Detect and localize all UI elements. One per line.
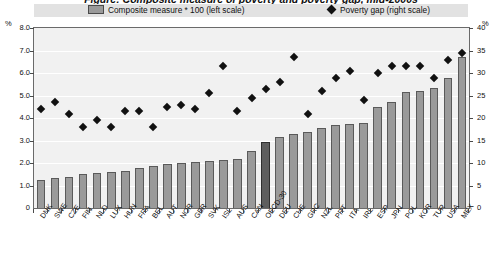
axis-label-left: 4.0 <box>4 113 30 122</box>
x-axis-tick <box>159 209 160 213</box>
x-axis-tick <box>468 209 469 213</box>
x-axis-tick <box>229 209 230 213</box>
x-axis-tick <box>384 209 385 213</box>
marker-aut <box>163 103 171 111</box>
x-axis-tick <box>117 209 118 213</box>
marker-kor <box>416 62 424 70</box>
bar-pol <box>402 92 411 208</box>
bar-fra <box>135 168 144 209</box>
x-axis-tick <box>370 209 371 213</box>
axis-label-right: 15 <box>477 136 502 145</box>
x-axis-tick <box>300 209 301 213</box>
x-axis-tick <box>328 209 329 213</box>
axis-label-left: 7.0 <box>4 46 30 55</box>
axis-tick-left <box>30 186 34 187</box>
x-axis-tick <box>89 209 90 213</box>
axis-label-right: 40 <box>477 23 502 32</box>
bar-usa <box>444 78 453 209</box>
bar-fin <box>79 174 88 208</box>
bar-mex <box>458 57 467 208</box>
diamond-marker-icon <box>327 5 337 15</box>
marker-fra <box>135 107 143 115</box>
axis-label-left: 3.0 <box>4 136 30 145</box>
axis-label-left: 8.0 <box>4 23 30 32</box>
x-axis-tick <box>187 209 188 213</box>
axis-label-left: 5.0 <box>4 91 30 100</box>
x-axis-tick <box>286 209 287 213</box>
axis-label-left: 1.0 <box>4 181 30 190</box>
marker-deu <box>275 78 283 86</box>
axis-tick-left <box>30 73 34 74</box>
marker-bel <box>149 123 157 131</box>
axis-label-right: 10 <box>477 158 502 167</box>
axis-label-left: 0 <box>4 203 30 212</box>
axis-tick-left <box>30 141 34 142</box>
marker-usa <box>444 55 452 63</box>
x-axis-tick <box>356 209 357 213</box>
marker-lux <box>107 123 115 131</box>
axis-tick-left <box>30 51 34 52</box>
marker-hun <box>121 107 129 115</box>
marker-oecd-30 <box>261 85 269 93</box>
legend-label-poverty-gap: Poverty gap (right scale) <box>340 5 430 15</box>
axis-tick-right <box>469 73 473 74</box>
x-axis-tick <box>398 209 399 213</box>
x-axis-tick <box>243 209 244 213</box>
marker-pol <box>402 62 410 70</box>
marker-isl <box>219 62 227 70</box>
x-axis-tick <box>454 209 455 213</box>
bar-jpn <box>387 102 396 208</box>
bar-nor <box>177 163 186 208</box>
square-swatch-icon <box>88 5 104 14</box>
axis-tick-right <box>469 28 473 29</box>
x-axis-tick <box>131 209 132 213</box>
x-axis-tick <box>47 209 48 213</box>
legend-label-composite: Composite measure * 100 (left scale) <box>108 5 245 15</box>
marker-che <box>289 53 297 61</box>
chart-legend: Composite measure * 100 (left scale) Pov… <box>34 4 468 17</box>
marker-nzl <box>317 87 325 95</box>
marker-gbr <box>191 105 199 113</box>
marker-cze <box>65 109 73 117</box>
x-axis-tick <box>75 209 76 213</box>
marker-prt <box>331 73 339 81</box>
axis-label-right: 5 <box>477 181 502 190</box>
marker-swe <box>51 98 59 106</box>
bar-kor <box>416 91 425 208</box>
bar-lux <box>107 172 116 208</box>
marker-fin <box>79 123 87 131</box>
marker-esp <box>374 69 382 77</box>
x-axis-tick <box>272 209 273 213</box>
bar-grc <box>303 132 312 209</box>
axis-label-left: 6.0 <box>4 68 30 77</box>
axis-tick-right <box>469 186 473 187</box>
x-axis-tick <box>314 209 315 213</box>
x-axis-tick <box>440 209 441 213</box>
bar-bel <box>149 166 158 208</box>
marker-nor <box>177 100 185 108</box>
bar-che <box>289 134 298 208</box>
axis-tick-right <box>469 51 473 52</box>
axis-tick-left <box>30 28 34 29</box>
x-axis: DNKSWECZEFINNLDLUXHUNFRABELAUTNORGBRSVKI… <box>33 209 470 213</box>
x-axis-tick <box>412 209 413 213</box>
marker-dnk <box>37 105 45 113</box>
axis-label-right: 25 <box>477 91 502 100</box>
gridline <box>34 51 469 52</box>
x-axis-tick <box>201 209 202 213</box>
legend-entry-poverty-gap: Poverty gap (right scale) <box>328 5 430 16</box>
bar-tur <box>430 88 439 208</box>
axis-tick-left <box>30 96 34 97</box>
x-axis-tick <box>145 209 146 213</box>
bar-prt <box>331 125 340 208</box>
bar-swe <box>51 178 60 208</box>
x-axis-tick <box>215 209 216 213</box>
x-axis-label-isl: ISL <box>220 206 234 220</box>
x-axis-tick <box>258 209 259 213</box>
axis-label-right: 0 <box>477 203 502 212</box>
marker-jpn <box>388 62 396 70</box>
bar-aut <box>163 164 172 208</box>
bar-can <box>247 151 256 208</box>
x-axis-tick <box>342 209 343 213</box>
marker-grc <box>303 109 311 117</box>
